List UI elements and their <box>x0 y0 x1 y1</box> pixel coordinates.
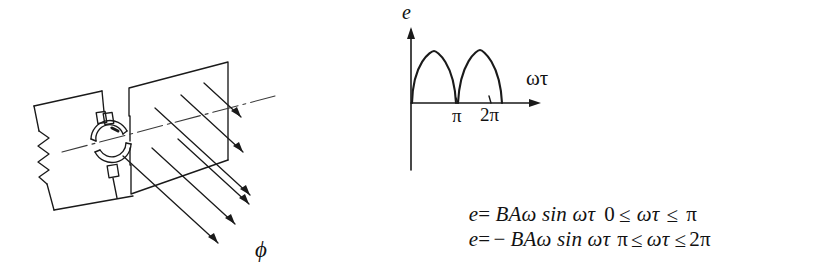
eq2-relation-2: ≤ <box>675 230 687 251</box>
eq2-range-low: π <box>617 227 628 251</box>
y-axis <box>407 27 415 170</box>
x-axis-label: ωτ <box>526 68 548 89</box>
eq2-range-high: 2π <box>689 227 711 251</box>
eq2-relation-1: ≤ <box>631 230 643 251</box>
x-axis-ticks <box>456 96 491 103</box>
waveform-curve <box>412 50 502 103</box>
eq2-lhs: e <box>469 227 479 251</box>
y-axis-label: e <box>402 2 411 22</box>
equation-line-2: e=−BAω sin ωτπ≤ωτ≤2π <box>447 208 711 271</box>
eq2-rhs: BAω sin ωτ <box>510 227 610 251</box>
x-axis <box>411 99 541 107</box>
figure-canvas: ϕ e ωτ π <box>0 0 815 275</box>
x-tick-label-2pi: 2π <box>480 105 499 124</box>
eq2-equals: = <box>478 227 490 251</box>
eq2-minus-sign: − <box>493 227 505 251</box>
x-tick-label-pi: π <box>452 106 462 125</box>
eq2-variable: ωτ <box>647 227 670 251</box>
